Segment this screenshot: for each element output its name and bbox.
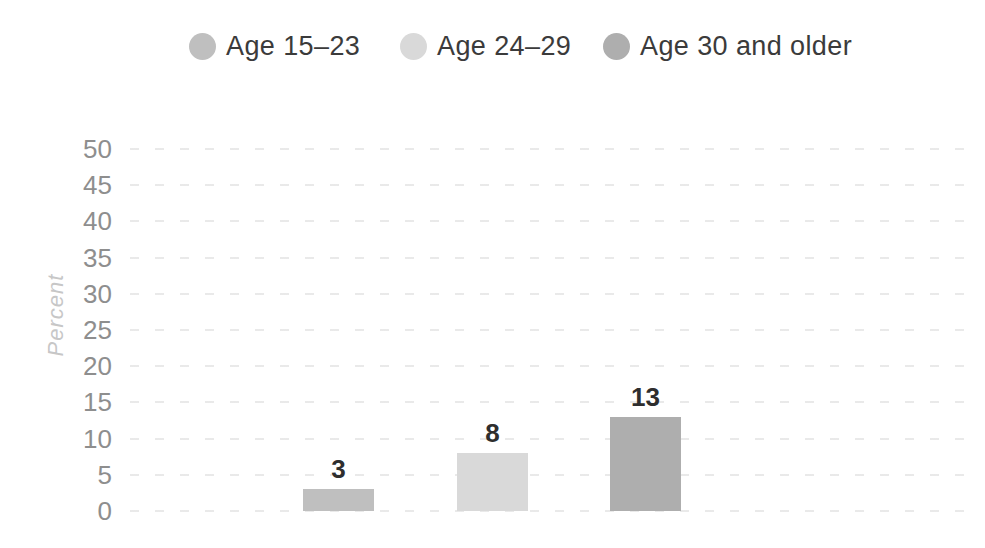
y-tick-label-5: 5 (98, 462, 112, 488)
bar-value-label-age-30-and-older: 13 (631, 384, 660, 410)
y-tick-label-30: 30 (83, 281, 112, 307)
legend-label: Age 30 and older (640, 33, 852, 60)
legend-item-age-30-older: Age 30 and older (603, 33, 852, 60)
bar-age-15-23 (303, 489, 374, 511)
legend-label: Age 15–23 (226, 33, 360, 60)
gridline-35 (130, 257, 980, 259)
gridline-30 (130, 293, 980, 295)
gridline-15 (130, 401, 980, 403)
plot-area: 3813 (130, 149, 980, 511)
legend-swatch-icon (400, 33, 427, 60)
legend-item-age-15-23: Age 15–23 (189, 33, 360, 60)
y-tick-label-35: 35 (83, 245, 112, 271)
y-tick-label-20: 20 (83, 353, 112, 379)
bar-value-label-age-15-23: 3 (331, 456, 345, 482)
legend-item-age-24-29: Age 24–29 (400, 33, 571, 60)
legend-label: Age 24–29 (437, 33, 571, 60)
y-tick-label-50: 50 (83, 136, 112, 162)
gridline-25 (130, 329, 980, 331)
legend-swatch-icon (189, 33, 216, 60)
bar-chart: Age 15–23 Age 24–29 Age 30 and older Per… (0, 0, 985, 548)
gridline-50 (130, 148, 980, 150)
y-axis: 05101520253035404550 (38, 0, 112, 548)
gridline-5 (130, 474, 980, 476)
bar-age-24-29 (457, 453, 528, 511)
y-tick-label-0: 0 (98, 498, 112, 524)
bar-age-30-and-older (610, 417, 681, 511)
y-tick-label-15: 15 (83, 389, 112, 415)
chart-legend: Age 15–23 Age 24–29 Age 30 and older (0, 0, 985, 70)
y-tick-label-45: 45 (83, 172, 112, 198)
gridline-45 (130, 184, 980, 186)
legend-swatch-icon (603, 33, 630, 60)
y-tick-label-40: 40 (83, 208, 112, 234)
gridline-20 (130, 365, 980, 367)
bar-value-label-age-24-29: 8 (485, 420, 499, 446)
y-tick-label-10: 10 (83, 426, 112, 452)
gridline-10 (130, 438, 980, 440)
gridline-40 (130, 220, 980, 222)
gridline-0 (130, 510, 980, 512)
y-tick-label-25: 25 (83, 317, 112, 343)
